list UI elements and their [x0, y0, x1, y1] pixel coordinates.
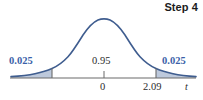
- axis-tick-label-zero: 0: [100, 82, 105, 93]
- center-probability-label: 0.95: [92, 56, 110, 67]
- step-label: Step 4: [164, 2, 198, 13]
- t-distribution-figure: Step 4 0.025 0.95 0.025 0 2.09 t: [0, 0, 203, 100]
- axis-variable-label: t: [185, 82, 188, 92]
- right-tail-probability-label: 0.025: [162, 56, 186, 67]
- left-tail-probability-label: 0.025: [9, 56, 33, 67]
- axis-tick-label-critical-value: 2.09: [143, 82, 161, 93]
- bell-curve: [11, 19, 196, 77]
